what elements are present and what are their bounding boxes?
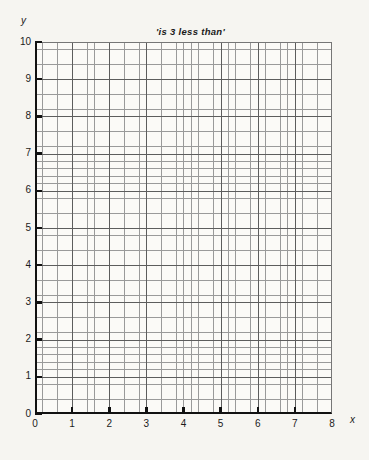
- x-axis-tick-labels: 012345678: [0, 418, 369, 434]
- x-tick-label: 8: [320, 418, 344, 429]
- x-tick-label: 3: [134, 418, 158, 429]
- y-axis-label: y: [21, 15, 26, 26]
- y-tick-label: 7: [5, 147, 31, 158]
- x-tick-mark: [219, 407, 222, 414]
- major-gridlines: [35, 42, 332, 414]
- x-tick-label: 2: [97, 418, 121, 429]
- x-axis-label: x: [350, 414, 355, 425]
- minor-gridlines: [35, 42, 332, 414]
- x-tick-mark: [71, 407, 74, 414]
- x-tick-label: 4: [172, 418, 196, 429]
- x-tick-mark: [257, 407, 260, 414]
- y-tick-label: 3: [5, 296, 31, 307]
- chart-title: 'is 3 less than': [0, 26, 369, 37]
- y-tick-mark: [35, 190, 42, 193]
- y-tick-mark: [35, 338, 42, 341]
- y-tick-label: 1: [5, 370, 31, 381]
- y-tick-mark: [35, 78, 42, 81]
- x-tick-label: 7: [283, 418, 307, 429]
- y-tick-mark: [35, 264, 42, 267]
- chart-canvas: y 'is 3 less than' 012345678910 01234567…: [0, 0, 369, 460]
- x-tick-label: 1: [60, 418, 84, 429]
- y-tick-mark: [35, 301, 42, 304]
- y-tick-mark: [35, 413, 42, 416]
- y-axis-tick-labels: 012345678910: [0, 42, 31, 414]
- x-tick-label: 6: [246, 418, 270, 429]
- y-tick-label: 10: [5, 36, 31, 47]
- y-tick-mark: [35, 227, 42, 230]
- y-tick-label: 0: [5, 408, 31, 419]
- y-tick-mark: [35, 376, 42, 379]
- y-tick-label: 6: [5, 184, 31, 195]
- y-tick-mark: [35, 115, 42, 118]
- y-tick-mark: [35, 152, 42, 155]
- plot-area: [35, 42, 332, 414]
- y-tick-label: 5: [5, 222, 31, 233]
- x-tick-mark: [145, 407, 148, 414]
- y-tick-label: 9: [5, 73, 31, 84]
- x-tick-label: 5: [209, 418, 233, 429]
- x-tick-mark: [294, 407, 297, 414]
- x-tick-mark: [108, 407, 111, 414]
- y-tick-label: 4: [5, 259, 31, 270]
- x-tick-mark: [182, 407, 185, 414]
- y-tick-mark: [35, 41, 42, 44]
- y-tick-label: 8: [5, 110, 31, 121]
- y-tick-label: 2: [5, 333, 31, 344]
- plot-frame: [35, 42, 332, 414]
- x-tick-label: 0: [23, 418, 47, 429]
